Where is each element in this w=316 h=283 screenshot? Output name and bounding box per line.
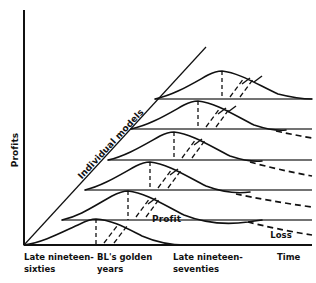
curve-model-5: [131, 101, 286, 130]
loss-tail-model-3: [236, 194, 312, 207]
xtick-2-line2: years: [97, 264, 123, 274]
xtick-1-line1: Late nineteen-: [24, 252, 94, 262]
curve-model-6: [155, 71, 312, 99]
hatch-dash-b-model-1: [114, 226, 127, 243]
profit-label: Profit: [152, 214, 182, 224]
tick-b-model-5: [228, 106, 236, 112]
chart-figure: Profits Individual models Profit Loss La…: [0, 0, 316, 283]
tick-b-model-6: [254, 76, 262, 82]
individual-models-label: Individual models: [76, 107, 146, 181]
curve-model-3: [85, 162, 250, 193]
y-axis-label: Profits: [10, 133, 20, 168]
hatch-dash-a-model-1: [104, 226, 117, 243]
xtick-3-line2: seventies: [173, 264, 219, 274]
xtick-3-line1: Late nineteen-: [173, 252, 243, 262]
loss-label: Loss: [270, 230, 291, 240]
profit-cycles-chart: Profits Individual models Profit Loss La…: [0, 0, 316, 283]
xtick-1-line2: sixties: [24, 264, 55, 274]
xtick-2-line1: BL's golden: [97, 252, 152, 262]
loss-tail-model-5: [276, 131, 312, 138]
x-axis-label: Time: [277, 252, 301, 262]
curve-model-4: [108, 132, 262, 161]
loss-tail-model-4: [250, 162, 312, 176]
